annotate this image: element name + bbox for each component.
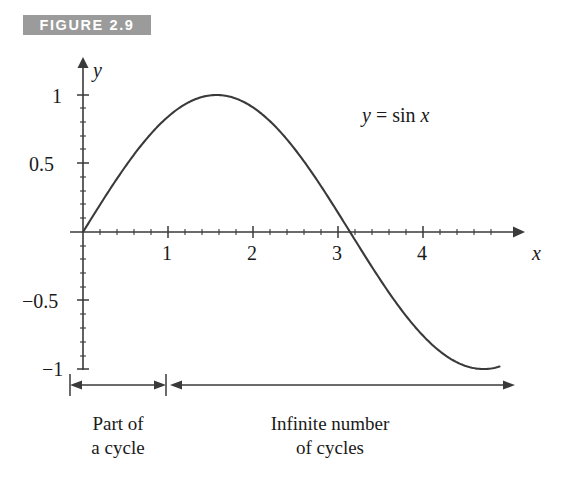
span-caption-right-line1: Infinite number <box>240 412 420 436</box>
equation-lhs: y <box>362 104 371 126</box>
equation-equals: = <box>371 104 392 126</box>
sine-plot <box>0 0 579 483</box>
span-caption-left-line2: a cycle <box>68 436 168 460</box>
y-axis <box>78 57 89 370</box>
span-caption-left: Part of a cycle <box>68 412 168 460</box>
y-tick-label-1: 1 <box>52 86 62 106</box>
equation-function: sin <box>392 104 415 126</box>
y-axis-label: y <box>93 60 102 80</box>
x-tick-label-1: 1 <box>162 243 172 263</box>
span-caption-right-line2: of cycles <box>240 436 420 460</box>
span-arrow-left <box>70 374 166 396</box>
y-tick-label-neg1: −1 <box>42 359 63 379</box>
equation-argument: x <box>421 104 430 126</box>
span-arrow-right <box>170 381 515 390</box>
y-tick-label-neg0.5: −0.5 <box>22 291 58 311</box>
equation-annotation: y = sin x <box>362 105 429 125</box>
figure-container: FIGURE 2.9 <box>0 0 579 483</box>
span-caption-left-line1: Part of <box>68 412 168 436</box>
x-tick-label-4: 4 <box>417 243 427 263</box>
x-axis-label: x <box>532 243 541 263</box>
y-tick-label-0.5: 0.5 <box>29 154 54 174</box>
span-caption-right: Infinite number of cycles <box>240 412 420 460</box>
x-tick-label-3: 3 <box>332 243 342 263</box>
x-tick-label-2: 2 <box>247 243 257 263</box>
